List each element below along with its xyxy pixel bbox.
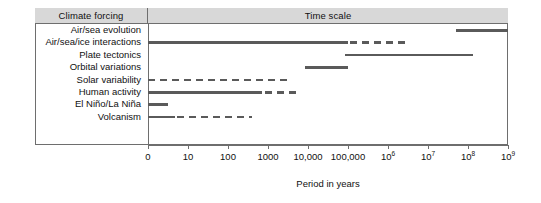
- row-label: Orbital variations: [35, 61, 145, 73]
- bar-row: [148, 24, 508, 36]
- axis-tick: [428, 145, 429, 149]
- axis-tick-label: 106: [381, 151, 395, 162]
- row-label: Volcanism: [35, 111, 145, 123]
- axis-tick: [228, 145, 229, 149]
- bar-row: [148, 36, 508, 48]
- axis-tick-label: 1000: [257, 151, 278, 162]
- axis-tick: [148, 145, 149, 149]
- axis-tick: [308, 145, 309, 149]
- bar-segment: [345, 54, 473, 57]
- axis-tick-label: 100: [220, 151, 236, 162]
- bar-row: [148, 86, 508, 98]
- axis-tick: [468, 145, 469, 149]
- x-axis-title: Period in years: [148, 178, 508, 189]
- axis-tick: [188, 145, 189, 149]
- bar-segment: [265, 91, 298, 94]
- bar-segment: [148, 41, 348, 44]
- bar-segment: [148, 116, 175, 119]
- bar-segment: [305, 66, 348, 69]
- bar-segment: [177, 116, 252, 119]
- row-label: El Niño/La Niña: [35, 98, 145, 110]
- row-label: Plate tectonics: [35, 49, 145, 61]
- axis-tick: [348, 145, 349, 149]
- bar-row: [148, 61, 508, 73]
- bar-row: [148, 74, 508, 86]
- bar-segment: [148, 79, 288, 82]
- climate-forcing-timescale-figure: Climate forcing Time scale Air/sea evolu…: [0, 0, 541, 203]
- header-time-scale: Time scale: [148, 8, 508, 23]
- axis-tick-label: 109: [501, 151, 515, 162]
- bar-row: [148, 111, 508, 123]
- axis-tick-label: 10,000: [293, 151, 322, 162]
- row-label: Air/sea evolution: [35, 24, 145, 36]
- axis-tick-label: 0: [145, 151, 150, 162]
- axis-tick-label: 107: [421, 151, 435, 162]
- axis-tick-label: 108: [461, 151, 475, 162]
- row-label: Solar variability: [35, 74, 145, 86]
- bar-row: [148, 98, 508, 110]
- row-label-column: Air/sea evolutionAir/sea/ice interaction…: [35, 24, 145, 123]
- x-axis-line: [148, 145, 508, 146]
- bar-segment: [350, 41, 408, 44]
- row-label: Human activity: [35, 86, 145, 98]
- table-header-row: Climate forcing Time scale: [35, 8, 508, 24]
- row-label: Air/sea/ice interactions: [35, 36, 145, 48]
- bars-plot-area: [148, 24, 508, 145]
- bar-segment: [148, 103, 168, 106]
- axis-tick-label: 10: [183, 151, 194, 162]
- bar-row: [148, 49, 508, 61]
- axis-tick-label: 100,000: [331, 151, 365, 162]
- axis-tick: [388, 145, 389, 149]
- axis-tick: [508, 145, 509, 149]
- bar-segment: [148, 91, 262, 94]
- axis-tick: [268, 145, 269, 149]
- bar-segment: [456, 29, 508, 32]
- header-climate-forcing: Climate forcing: [35, 8, 148, 23]
